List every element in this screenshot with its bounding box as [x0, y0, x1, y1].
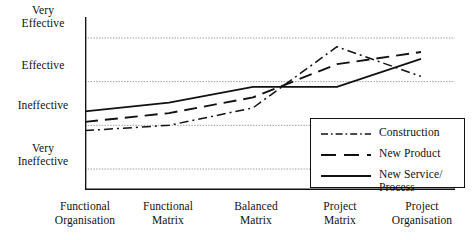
- legend-item-new-service-process: New Service/ Process: [311, 165, 464, 189]
- legend-swatch-dashed: [320, 144, 372, 166]
- legend-item-construction: Construction: [311, 123, 464, 145]
- y-tick-label-very-effective: Very Effective: [8, 4, 78, 30]
- legend-label-new-product: New Product: [379, 147, 440, 160]
- legend-swatch-solid: [320, 165, 372, 187]
- legend-item-new-product: New Product: [311, 144, 464, 166]
- legend-label-construction: Construction: [379, 126, 440, 139]
- legend-label-new-service-process: New Service/ Process: [379, 168, 442, 194]
- chart-legend: Construction New Product New Service/ Pr…: [310, 118, 465, 188]
- x-tick-label-project-organisation: Project Organisation: [372, 200, 472, 227]
- y-tick-label-very-ineffective: Very Ineffective: [4, 142, 82, 168]
- series-line-new-service-process: [85, 59, 421, 111]
- chart-figure: Very Effective Effective Ineffective Ver…: [0, 0, 474, 240]
- y-tick-label-ineffective: Ineffective: [4, 99, 82, 112]
- y-tick-label-effective: Effective: [8, 59, 78, 72]
- legend-swatch-dash-dot: [320, 123, 372, 145]
